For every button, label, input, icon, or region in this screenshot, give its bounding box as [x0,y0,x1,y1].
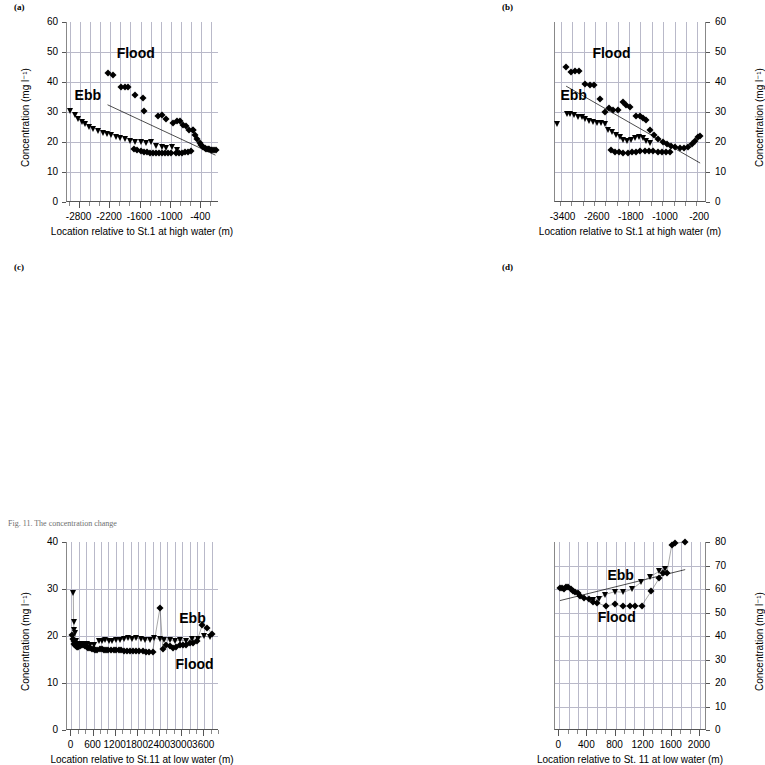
data-point-flood [643,117,650,124]
x-tick-mark [70,730,71,736]
x-tick-mark [152,730,153,734]
y-tick-label: 0 [32,724,58,735]
panel-label-d: (d) [502,262,513,272]
x-tick-mark [180,202,181,206]
x-tick-mark [568,730,569,734]
y-tick-label: 60 [715,583,741,594]
y-tick-mark [706,730,710,731]
data-point-ebb [629,586,635,592]
series-label-flood: Flood [117,45,155,61]
x-tick-mark [181,730,182,736]
data-point-ebb [207,634,213,640]
x-tick-mark [661,730,662,734]
x-tick-mark [560,202,561,206]
x-tick-mark [583,202,584,206]
panel-label-b: (b) [502,2,513,12]
data-point-ebb [554,121,560,127]
y-axis-title: Concentration (mg l⁻¹) [20,592,31,691]
panel-label-c: (c) [14,262,24,272]
y-axis-title: Concentration (mg l⁻¹) [754,592,765,691]
data-point-ebb [612,589,618,595]
data-point-ebb [72,630,78,636]
y-tick-mark [62,542,66,543]
x-axis-title: Location relative to St.1 at high water … [27,226,257,237]
series-label-ebb: Ebb [179,610,205,626]
data-point-ebb [195,636,201,642]
x-tick-mark [79,202,80,208]
x-tick-label: -400 [174,211,226,222]
data-point-flood [156,604,163,611]
gridline-horizontal [67,683,218,684]
x-tick-mark [93,730,94,736]
y-tick-mark [706,82,710,83]
y-tick-label: 40 [32,76,58,87]
y-tick-label: 30 [32,583,58,594]
y-tick-label: 60 [32,16,58,27]
x-tick-mark [696,202,697,206]
panel-b: (b)0102030405060-3400-2600-1800-1000-200… [265,0,530,266]
x-tick-mark [166,730,167,734]
data-point-ebb [174,147,180,153]
series-label-flood: Flood [598,609,636,625]
x-tick-mark [685,202,686,206]
panel-c: (c)010203040060012001800240030003600Loca… [0,260,265,532]
x-axis-title: Location relative to St. 11 at low water… [515,754,745,765]
x-tick-mark [78,730,79,734]
data-point-flood [667,149,674,156]
data-point-ebb [602,592,608,598]
y-tick-mark [706,589,710,590]
x-tick-mark [558,730,559,736]
x-tick-mark [571,202,572,206]
y-tick-mark [706,613,710,614]
y-tick-mark [706,112,710,113]
data-point-flood [602,602,609,609]
x-tick-mark [639,202,640,206]
series-label-ebb: Ebb [607,567,633,583]
data-point-ebb [596,596,602,602]
y-tick-mark [706,542,710,543]
x-axis-title: Location relative to St.1 at high water … [515,226,745,237]
x-tick-mark [643,730,644,736]
y-tick-mark [62,730,66,731]
x-tick-mark [144,730,145,734]
x-tick-mark [680,730,681,734]
panel-label-a: (a) [14,2,25,12]
x-tick-mark [129,202,130,206]
x-tick-mark [596,730,597,734]
y-tick-label: 30 [715,654,741,665]
x-tick-mark [594,202,595,206]
y-tick-label: 80 [715,536,741,547]
x-tick-mark [699,730,700,736]
y-tick-label: 0 [715,196,741,207]
gridline-horizontal [67,82,218,83]
y-tick-mark [706,202,710,203]
data-point-ebb [71,619,77,625]
x-tick-mark [109,202,110,208]
y-tick-mark [706,683,710,684]
data-point-ebb [647,140,653,146]
y-tick-label: 50 [715,46,741,57]
x-tick-mark [651,202,652,206]
x-tick-mark [190,202,191,206]
x-tick-mark [170,202,171,208]
y-tick-mark [62,172,66,173]
x-tick-mark [115,730,116,736]
plot-area-c [66,542,218,730]
gridline-horizontal [555,172,705,173]
x-tick-mark [160,202,161,206]
x-tick-mark [210,202,211,206]
x-tick-label: 2000 [673,739,725,750]
y-tick-label: 50 [32,46,58,57]
y-tick-label: 10 [715,701,741,712]
x-tick-mark [159,730,160,736]
y-tick-label: 50 [715,607,741,618]
x-tick-mark [690,730,691,734]
data-point-ebb [163,145,169,151]
y-axis-title: Concentration (mg l⁻¹) [754,68,765,167]
x-tick-mark [122,730,123,734]
x-tick-mark [140,202,141,208]
y-tick-mark [706,660,710,661]
y-tick-mark [706,566,710,567]
gridline-horizontal [67,589,218,590]
